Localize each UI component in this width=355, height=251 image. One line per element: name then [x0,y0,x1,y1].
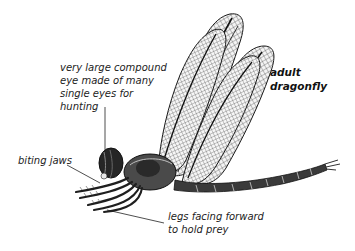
legs-label-line: legs facing forward [168,210,264,223]
jaws-label-line: biting jaws [18,154,72,167]
eye-label-line: very large compound [60,61,167,74]
diagram-title: adult dragonfly [270,65,327,93]
title-line: dragonfly [270,79,327,93]
legs [76,178,142,212]
eye-label-line: single eyes for [60,87,167,100]
jaws-leader-line [67,165,100,183]
title-line: adult [270,65,327,79]
legs-label-line: to hold prey [168,223,264,236]
legs-label: legs facing forward to hold prey [168,210,264,236]
tail-appendages [325,160,340,170]
eye-label-line: eye made of many [60,74,167,87]
eye-label: very large compound eye made of many sin… [60,61,167,113]
jaws-label: biting jaws [18,154,72,167]
eye-label-line: hunting [60,100,167,113]
legs-leader-line [107,210,164,223]
